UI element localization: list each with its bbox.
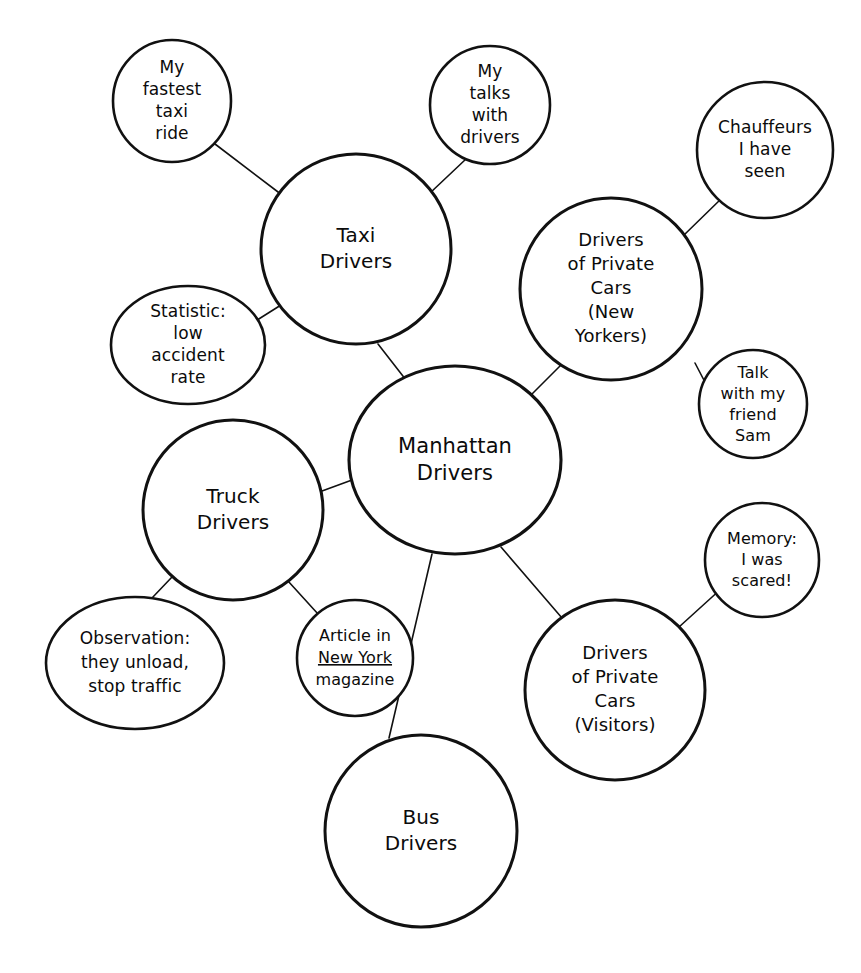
node-chauffeurs-i-have-seen[interactable]: ChauffeursI haveseen [697,82,833,218]
node-label-line: Drivers [320,249,393,273]
node-label-line: Bus [402,805,439,829]
node-label-line: Talk [736,362,769,381]
node-label-line: Sam [735,425,771,444]
node-label-line: rate [171,367,206,387]
node-label-line: with my [721,383,786,402]
node-label-line: Cars [595,690,636,711]
node-label-line: with [472,105,508,125]
node-label-line: My [478,61,503,81]
node-bus-drivers[interactable]: BusDrivers [325,735,517,927]
node-manhattan-drivers[interactable]: ManhattanDrivers [349,366,561,554]
node-label-line: Taxi [336,223,376,247]
node-label-line: Cars [591,277,632,298]
node-label-line: Drivers [582,642,647,663]
node-label-line: Truck [205,484,260,508]
node-taxi-drivers[interactable]: TaxiDrivers [261,154,451,344]
node-label-line: of Private [572,666,659,687]
node-label-observation-they-unload-stop-traffic: Observation:they unload,stop traffic [80,628,190,696]
node-memory-i-was-scared[interactable]: Memory:I wasscared! [705,503,819,617]
node-label-article-in-new-york-magazine: Article inNew Yorkmagazine [316,626,395,689]
node-label-line: Drivers [578,229,643,250]
node-label-line: taxi [156,101,188,121]
node-label-line: Observation: [80,628,190,648]
node-label-line: Drivers [197,510,270,534]
node-label-line: talks [469,83,510,103]
node-label-line: Yorkers) [574,325,647,346]
node-my-talks-with-drivers[interactable]: Mytalkswithdrivers [430,46,550,164]
node-label-line: of Private [568,253,655,274]
node-label-line: My [160,57,185,77]
node-label-line: Drivers [417,461,493,485]
mind-map-svg: ManhattanDriversTaxiDriversDriversof Pri… [0,0,861,973]
edge-manhattan-taxi [378,344,406,380]
edge-taxi-talksdrivers [430,159,466,193]
node-label-line: I have [739,139,792,159]
edge-manhattan-privatevis [501,547,562,618]
node-label-line: accident [151,345,225,365]
node-label-line: scared! [732,571,792,590]
node-label-line: Drivers [385,831,458,855]
node-label-line: Statistic: [150,301,226,321]
node-label-line: Article in [319,626,391,645]
node-label-line: Chauffeurs [718,117,812,137]
edge-taxi-fastestride [215,144,282,195]
node-drivers-private-cars-visitors[interactable]: Driversof PrivateCars(Visitors) [525,600,705,780]
nodes-layer: ManhattanDriversTaxiDriversDriversof Pri… [46,40,833,927]
node-label-line: low [173,323,202,343]
edge-privatenew-chauffeurs [684,198,722,235]
node-label-line: New York [318,648,393,667]
edge-truck-article [288,581,318,614]
node-label-line: fastest [143,79,202,99]
node-label-line: ride [155,123,188,143]
node-label-line: drivers [460,127,520,147]
node-label-line: stop traffic [88,676,181,696]
node-observation-they-unload-stop-traffic[interactable]: Observation:they unload,stop traffic [46,597,224,729]
edge-truck-observation [152,577,172,598]
node-label-line: Memory: [727,529,797,548]
node-my-fastest-taxi-ride[interactable]: Myfastesttaxiride [113,40,231,162]
node-label-line: Manhattan [398,434,512,458]
node-label-line: (New [588,301,635,322]
node-drivers-private-cars-new-yorkers[interactable]: Driversof PrivateCars(NewYorkers) [520,198,702,380]
diagram-canvas: ManhattanDriversTaxiDriversDriversof Pri… [0,0,861,973]
edge-manhattan-truck [322,480,352,491]
node-label-line: magazine [316,670,395,689]
node-label-line: (Visitors) [574,714,655,735]
node-label-line: I was [741,550,783,569]
node-label-line: friend [729,404,776,423]
node-label-line: seen [745,161,786,181]
node-label-line: they unload, [81,652,189,672]
node-article-in-new-york-magazine[interactable]: Article inNew Yorkmagazine [297,600,413,716]
node-statistic-low-accident-rate[interactable]: Statistic:lowaccidentrate [111,286,265,404]
node-talk-with-my-friend-sam[interactable]: Talkwith myfriendSam [699,350,807,458]
node-truck-drivers[interactable]: TruckDrivers [143,420,323,600]
